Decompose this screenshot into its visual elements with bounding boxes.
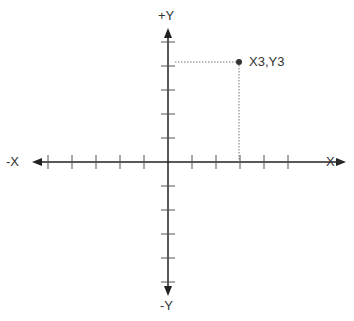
- pos-x-label: X+: [326, 154, 342, 169]
- point-label: X3,Y3: [249, 54, 284, 69]
- point-marker: [236, 59, 242, 65]
- x-axis-arrow-left-icon: [32, 158, 42, 166]
- neg-x-label: -X: [6, 154, 19, 169]
- neg-y-label: -Y: [160, 298, 173, 313]
- coordinate-plane: [0, 0, 354, 321]
- pos-y-label: +Y: [158, 8, 174, 23]
- y-axis-arrow-up-icon: [164, 28, 172, 38]
- y-axis-arrow-down-icon: [164, 286, 172, 296]
